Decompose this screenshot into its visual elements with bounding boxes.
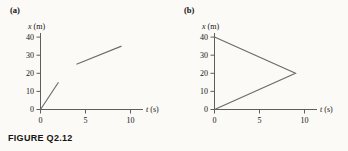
panel-a-xticklabel-5: 5 [84,116,88,125]
panel-a-yticklabel-10: 10 [26,87,34,96]
panel-a-data-segment-1 [41,82,59,109]
panel-a-plot: x (m) 0 10 20 30 40 0 5 10 t [0,0,174,131]
panel-b: (b) x (m) 0 10 20 30 40 0 5 [174,0,348,131]
panel-b-xticklabel-5: 5 [258,116,262,125]
panel-a-yticklabel-40: 40 [26,33,34,42]
panel-a: (a) x (m) 0 10 20 30 40 0 5 [0,0,174,131]
panel-b-plot: x (m) 0 10 20 30 40 0 5 10 t [174,0,348,131]
figure-q2-12: (a) x (m) 0 10 20 30 40 0 5 [0,0,348,151]
panel-a-xticklabel-10: 10 [127,116,135,125]
panel-b-yticklabel-0: 0 [204,105,208,114]
panel-a-yticklabel-20: 20 [26,69,34,78]
panel-a-yticklabel-30: 30 [26,51,34,60]
panel-a-data-segment-2 [77,46,122,64]
panel-a-y-axis-label: x (m) [27,22,45,31]
panel-b-xticklabel-0: 0 [213,116,217,125]
panel-b-yticklabel-20: 20 [200,69,208,78]
panel-b-data-segment-1 [215,37,296,109]
panel-a-xticklabel-0: 0 [39,116,43,125]
panel-b-xticklabel-10: 10 [301,116,309,125]
panel-b-yticklabel-30: 30 [200,51,208,60]
panel-b-y-axis-label: x (m) [201,22,219,31]
panel-b-x-axis-label: t (s) [320,105,333,114]
panel-a-x-axis-label: t (s) [146,105,159,114]
figure-caption: FIGURE Q2.12 [8,133,73,143]
panel-b-yticklabel-10: 10 [200,87,208,96]
panel-b-yticklabel-40: 40 [200,33,208,42]
panel-a-yticklabel-0: 0 [30,105,34,114]
